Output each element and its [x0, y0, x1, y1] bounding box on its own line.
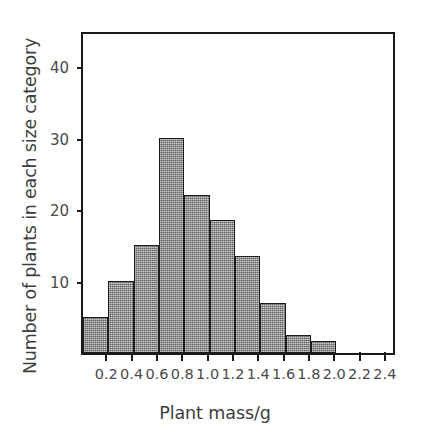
x-tick-mark	[207, 352, 209, 361]
x-tick-mark	[181, 352, 183, 361]
histogram-bar	[159, 138, 184, 353]
histogram-figure: Number of plants in each size category 1…	[0, 0, 430, 446]
histogram-bar	[184, 195, 209, 353]
x-tick-mark	[333, 352, 335, 361]
x-tick-mark	[283, 352, 285, 361]
x-axis-title: Plant mass/g	[0, 403, 430, 423]
histogram-bar	[311, 341, 336, 353]
histogram-bar	[260, 303, 285, 353]
bar-series	[83, 34, 393, 353]
x-tick-mark	[131, 352, 133, 361]
y-tick-label: 30	[19, 131, 69, 149]
histogram-bar	[210, 220, 235, 353]
histogram-bar	[286, 335, 311, 353]
y-tick-label: 40	[19, 59, 69, 77]
x-tick-mark	[308, 352, 310, 361]
x-tick-mark	[156, 352, 158, 361]
histogram-bar	[134, 245, 159, 353]
histogram-bar	[83, 317, 108, 353]
histogram-bar	[108, 281, 133, 353]
x-tick-mark	[359, 352, 361, 361]
x-tick-mark	[232, 352, 234, 361]
x-tick-label: 2.4	[365, 366, 405, 382]
x-tick-mark	[384, 352, 386, 361]
x-tick-mark	[105, 352, 107, 361]
y-tick-label: 20	[19, 202, 69, 220]
histogram-bar	[235, 256, 260, 353]
x-tick-mark	[257, 352, 259, 361]
plot-area	[81, 32, 395, 355]
y-tick-label: 10	[19, 274, 69, 292]
